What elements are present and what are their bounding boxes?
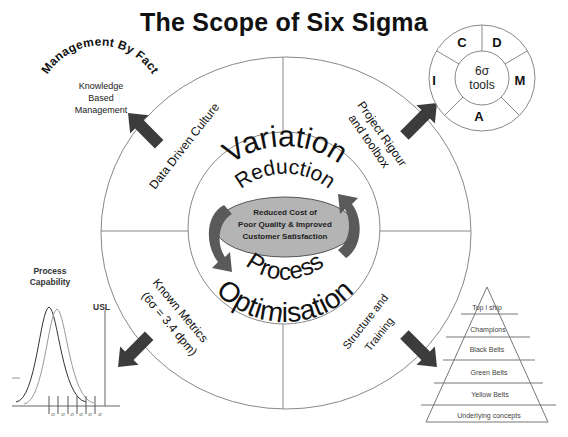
sigma-tick-2: σ [61, 411, 65, 417]
sigma-tick-3: σ [70, 411, 74, 417]
pyramid-level-2: Champions [470, 326, 506, 334]
management-by-fact-heading: Management By Fact [38, 35, 161, 77]
kbm-line-1: Knowledge [56, 80, 146, 92]
sigma-tick-5: σ [88, 411, 92, 417]
segment-a: A [474, 109, 484, 124]
segment-c: C [457, 35, 467, 50]
ellipse-line-1: Reduced Cost of [253, 208, 317, 217]
pc-line-1: Process [14, 266, 86, 277]
ellipse-line-3: Customer Satisfaction [243, 232, 328, 241]
pyramid-level-3: Black Belts [470, 346, 505, 353]
kbm-line-3: Management [56, 104, 146, 116]
pyramid-level-1: Top l ship [472, 304, 502, 312]
tools-wheel-tools: tools [469, 78, 494, 92]
pyramid-level-5: Yellow Belts [471, 391, 509, 398]
sigma-tick-4: σ [79, 411, 83, 417]
knowledge-based-management: Knowledge Based Management [56, 80, 146, 116]
segment-m: M [515, 73, 526, 88]
ellipse-line-2: Poor Quality & Improved [238, 220, 332, 229]
tools-wheel: 6σ tools D M A I C [429, 25, 535, 131]
diagram-canvas: Reduced Cost of Poor Quality & Improved … [0, 0, 568, 437]
process-capability-heading: Process Capability [14, 266, 86, 288]
tools-wheel-sigma: 6σ [475, 64, 490, 78]
kbm-line-2: Based [56, 92, 146, 104]
process-capability-chart: σ σ σ σ σ σ [12, 307, 120, 417]
segment-i: I [432, 73, 436, 88]
belt-pyramid: Top l ship Champions Black Belts Green B… [421, 287, 556, 422]
sigma-tick-6: σ [98, 411, 102, 417]
arrow-to-capability-icon [109, 327, 158, 376]
sigma-tick-1: σ [51, 411, 55, 417]
usl-label: USL [93, 302, 110, 312]
pyramid-level-4: Green Belts [471, 369, 508, 376]
six-sigma-diagram: The Scope of Six Sigma Reduced Cost of P… [0, 0, 568, 437]
pyramid-level-6: Underlying concepts [457, 412, 521, 420]
pc-line-2: Capability [14, 277, 86, 288]
segment-d: D [492, 35, 501, 50]
